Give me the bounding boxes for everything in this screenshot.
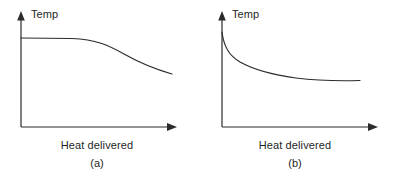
data-curve-a	[21, 38, 172, 74]
figure-root: Temp Heat delivered (a) Temp Heat delive…	[0, 0, 393, 179]
y-axis-arrowhead-b	[218, 11, 226, 21]
y-axis-arrowhead-a	[17, 11, 25, 21]
panel-a: Temp Heat delivered (a)	[0, 0, 196, 179]
plot-a	[0, 0, 196, 179]
x-axis-arrowhead-b	[368, 123, 378, 131]
x-axis-label-b: Heat delivered	[232, 139, 358, 151]
x-axis-label-a: Heat delivered	[37, 139, 157, 151]
panel-caption-a: (a)	[37, 157, 157, 169]
panel-b: Temp Heat delivered (b)	[196, 0, 393, 179]
plot-b	[196, 0, 393, 179]
y-axis-label-b: Temp	[232, 8, 259, 20]
x-axis-arrowhead-a	[167, 123, 177, 131]
y-axis-label-a: Temp	[31, 8, 58, 20]
panel-caption-b: (b)	[232, 157, 358, 169]
data-curve-b	[222, 32, 360, 81]
